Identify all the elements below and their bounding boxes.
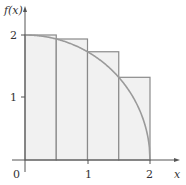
- riemann-rectangle-2: [56, 39, 87, 160]
- y-axis-arrow-icon: [23, 6, 27, 12]
- x-tick-label-1: 1: [85, 168, 92, 181]
- y-tick-label-2: 2: [10, 29, 17, 42]
- riemann-rectangle-3: [88, 52, 119, 160]
- riemann-rectangle-4: [119, 77, 150, 160]
- y-tick-label-1: 1: [10, 91, 17, 104]
- riemann-sum-chart: f(x) x 0 1 2 2 1: [0, 0, 186, 185]
- y-axis-label: f(x): [3, 4, 23, 17]
- x-axis-arrow-icon: [174, 158, 180, 162]
- x-axis-label: x: [174, 168, 181, 181]
- origin-label: 0: [13, 168, 20, 181]
- x-tick-label-2: 2: [146, 168, 153, 181]
- riemann-rectangle-1: [25, 35, 56, 160]
- riemann-rectangles: [25, 35, 150, 160]
